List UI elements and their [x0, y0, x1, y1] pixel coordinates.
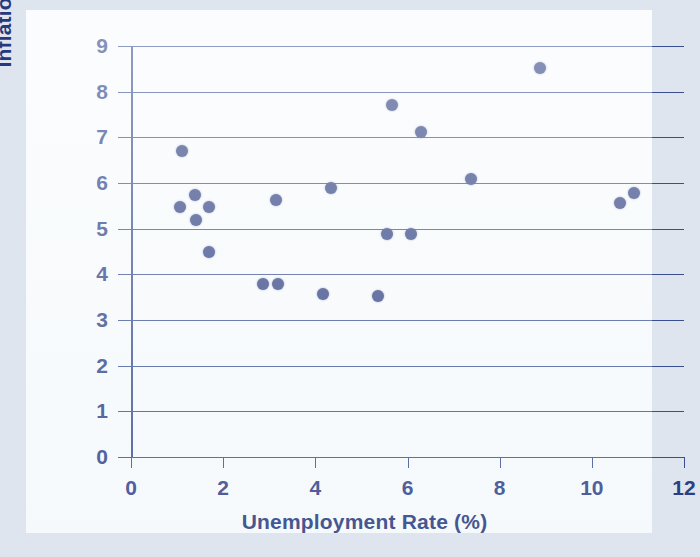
x-tick-0 [131, 457, 132, 468]
scatter-point [257, 278, 269, 290]
y-axis-line [131, 46, 133, 457]
y-tick-5 [118, 229, 131, 230]
x-tick-6 [408, 457, 409, 468]
y-tick-2 [118, 366, 131, 367]
scatter-point [270, 194, 282, 206]
scatter-point [174, 201, 186, 213]
y-tick-4 [118, 274, 131, 275]
y-tick-label-3: 3 [72, 308, 108, 332]
scatter-point [272, 278, 284, 290]
x-tick-label-10: 10 [570, 476, 614, 500]
y-tick-3 [118, 320, 131, 321]
y-tick-1 [118, 411, 131, 412]
scan-artifact-text [38, 255, 45, 286]
scatter-point [534, 62, 546, 74]
scatter-point [372, 290, 384, 302]
gridline-y-4 [131, 274, 684, 275]
y-tick-label-9: 9 [72, 34, 108, 58]
y-tick-label-8: 8 [72, 80, 108, 104]
scatter-point [203, 246, 215, 258]
scatter-point [317, 288, 329, 300]
y-tick-label-6: 6 [72, 171, 108, 195]
x-tick-10 [592, 457, 593, 468]
y-tick-label-4: 4 [72, 262, 108, 286]
y-tick-8 [118, 92, 131, 93]
gridline-y-7 [131, 137, 684, 138]
x-tick-label-2: 2 [201, 476, 245, 500]
gridline-y-1 [131, 411, 684, 412]
scatter-point [189, 189, 201, 201]
scatter-point [176, 145, 188, 157]
gridline-y-6 [131, 183, 684, 184]
scatter-point [405, 228, 417, 240]
x-tick-8 [500, 457, 501, 468]
x-tick-label-6: 6 [386, 476, 430, 500]
x-tick-4 [315, 457, 316, 468]
scatter-point [203, 201, 215, 213]
y-tick-6 [118, 183, 131, 184]
y-tick-label-0: 0 [72, 445, 108, 469]
y-tick-0 [118, 457, 131, 458]
x-tick-12 [684, 457, 685, 468]
x-tick-label-0: 0 [109, 476, 153, 500]
y-axis-title: Inflation Rate (%) [0, 0, 16, 110]
x-tick-label-12: 12 [662, 476, 700, 500]
scatter-point [381, 228, 393, 240]
x-tick-2 [223, 457, 224, 468]
scatter-point [628, 187, 640, 199]
y-tick-9 [118, 46, 131, 47]
y-tick-7 [118, 137, 131, 138]
y-tick-label-5: 5 [72, 217, 108, 241]
gridline-y-9 [131, 46, 684, 47]
y-tick-label-7: 7 [72, 125, 108, 149]
y-tick-label-1: 1 [72, 399, 108, 423]
gridline-y-3 [131, 320, 684, 321]
x-tick-label-4: 4 [293, 476, 337, 500]
scatter-point [190, 214, 202, 226]
y-tick-label-2: 2 [72, 354, 108, 378]
scatter-point [325, 182, 337, 194]
chart-card: Inflation Rate (%) Unemployment Rate (%)… [26, 10, 652, 533]
x-axis-title: Unemployment Rate (%) [26, 510, 700, 534]
gridline-y-8 [131, 92, 684, 93]
scatter-point [614, 197, 626, 209]
gridline-y-2 [131, 366, 684, 367]
x-tick-label-8: 8 [478, 476, 522, 500]
scatter-point [386, 99, 398, 111]
